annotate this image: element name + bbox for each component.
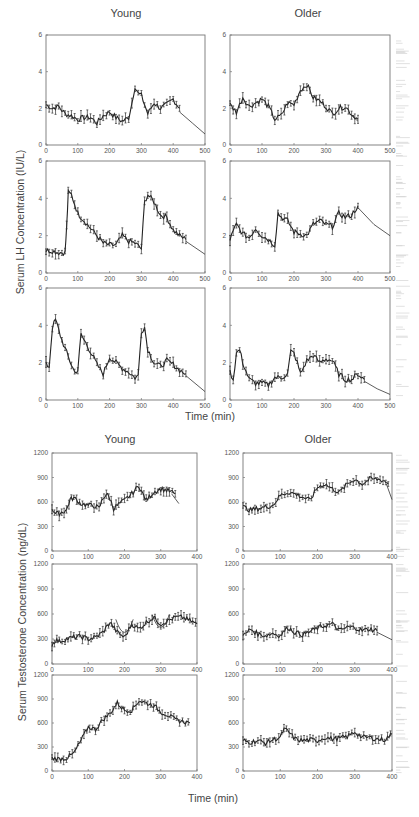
y-tick-label: 900 [228,474,239,481]
y-tick-label: 1200 [34,560,49,567]
x-tick-label: 0 [50,553,54,560]
model-fit-curve [377,632,392,640]
plot-frame [46,35,205,145]
x-tick-label: 300 [155,553,166,560]
y-tick-label: 2 [222,359,226,366]
error-bars [51,699,189,765]
y-tick-label: 6 [38,284,42,291]
x-tick-label: 100 [83,666,94,673]
x-tick-label: 100 [257,402,268,409]
x-tick-label: 200 [104,402,115,409]
model-fit-curve [364,381,390,394]
data-series [230,350,364,387]
x-tick-label: 200 [119,773,130,780]
lh-x-axis-label: Time (min) [185,410,235,422]
figure: Young Older Young Older Serum LH Concent… [0,0,419,817]
y-tick-label: 300 [228,635,239,642]
x-tick-label: 300 [321,147,332,154]
y-tick-label: 0 [44,547,48,554]
x-tick-label: 400 [168,402,179,409]
y-tick-label: 4 [222,68,226,75]
y-tick-label: 300 [228,523,239,530]
x-tick-label: 300 [136,275,147,282]
x-tick-label: 300 [349,666,360,673]
chart-panel-t-young-3: 030060090012000100200300400 [34,671,203,780]
chart-panel-lh-young-3: 02460100200300400500 [38,284,210,409]
x-tick-label: 300 [321,275,332,282]
x-tick-label: 0 [241,773,245,780]
x-tick-label: 100 [275,773,286,780]
x-tick-label: 0 [44,275,48,282]
y-tick-label: 0 [235,547,239,554]
x-tick-label: 400 [192,666,203,673]
error-bars [229,203,359,251]
x-tick-label: 500 [200,147,211,154]
error-bars [45,86,181,127]
y-tick-label: 4 [38,195,42,202]
y-tick-label: 6 [38,157,42,164]
x-tick-label: 500 [200,275,211,282]
data-series [243,477,388,512]
y-tick-label: 600 [37,498,48,505]
lh-young-title: Young [111,7,142,19]
y-tick-label: 600 [37,719,48,726]
y-tick-label: 0 [222,141,226,148]
x-tick-label: 400 [387,666,398,673]
error-bars [229,344,365,390]
x-tick-label: 400 [353,275,364,282]
error-bars [229,84,359,125]
y-tick-label: 0 [235,660,239,667]
data-series [243,622,377,637]
x-tick-label: 500 [385,147,396,154]
y-tick-label: 6 [222,31,226,38]
y-tick-label: 4 [222,195,226,202]
t-x-axis-label: Time (min) [188,792,238,804]
chart-panel-lh-young-2: 02460100200300400500 [38,157,210,282]
y-tick-label: 1200 [225,671,240,678]
y-tick-label: 0 [38,396,42,403]
y-tick-label: 6 [222,157,226,164]
x-tick-label: 400 [353,402,364,409]
y-tick-label: 2 [38,105,42,112]
x-tick-label: 100 [72,147,83,154]
x-tick-label: 0 [241,553,245,560]
x-tick-label: 0 [44,402,48,409]
chart-panel-t-older-2: 030060090012000100200300400 [225,560,398,673]
y-tick-label: 300 [37,523,48,530]
y-tick-label: 600 [37,610,48,617]
plot-frame [230,161,390,273]
x-tick-label: 0 [50,773,54,780]
x-tick-label: 400 [192,553,203,560]
chart-panel-t-older-1: 030060090012000100200300400 [225,449,398,560]
x-tick-label: 400 [387,773,398,780]
x-tick-label: 100 [72,402,83,409]
chart-panel-t-older-3: 030060090012000100200300400 [225,671,398,780]
chart-panel-t-young-2: 030060090012000100200300400 [34,560,203,673]
y-tick-label: 600 [228,719,239,726]
y-tick-label: 900 [228,585,239,592]
x-tick-label: 0 [50,666,54,673]
x-tick-label: 300 [155,666,166,673]
x-tick-label: 300 [136,402,147,409]
model-fit-curve [116,619,133,632]
x-tick-label: 300 [349,553,360,560]
x-tick-label: 100 [275,666,286,673]
x-tick-label: 200 [119,553,130,560]
model-fit-curve [180,112,205,134]
y-tick-label: 0 [235,767,239,774]
y-tick-label: 4 [38,322,42,329]
y-tick-label: 4 [38,68,42,75]
chart-panel-t-young-1: 030060090012000100200300400 [34,449,203,560]
model-fit-curve [186,376,205,392]
x-tick-label: 400 [192,773,203,780]
plot-frame [243,564,392,664]
y-tick-label: 300 [37,635,48,642]
x-tick-label: 0 [241,666,245,673]
y-tick-label: 900 [37,474,48,481]
lh-y-axis-label: Serum LH Concentration (IU/L) [14,150,26,295]
x-tick-label: 200 [312,773,323,780]
y-tick-label: 900 [37,585,48,592]
data-series [46,319,186,379]
x-tick-label: 100 [275,553,286,560]
x-tick-label: 200 [289,402,300,409]
